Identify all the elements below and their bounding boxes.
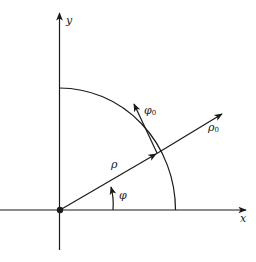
- x-axis-label: x: [240, 212, 247, 225]
- y-axis-label: y: [65, 14, 73, 27]
- quarter-circle-arc: [60, 88, 176, 210]
- phi-label: φ: [119, 189, 127, 202]
- origin-point: [57, 207, 63, 213]
- rho-vector: [60, 154, 156, 210]
- rho-label: ρ: [110, 158, 118, 171]
- rho0-label: ρ0: [207, 121, 219, 134]
- phi-angle-arrow: [111, 187, 113, 210]
- rho0-unit-vector: [156, 114, 222, 154]
- phi0-label: φ0: [144, 104, 156, 117]
- polar-coordinates-diagram: y x ρ φ ρ0 φ0: [0, 0, 256, 262]
